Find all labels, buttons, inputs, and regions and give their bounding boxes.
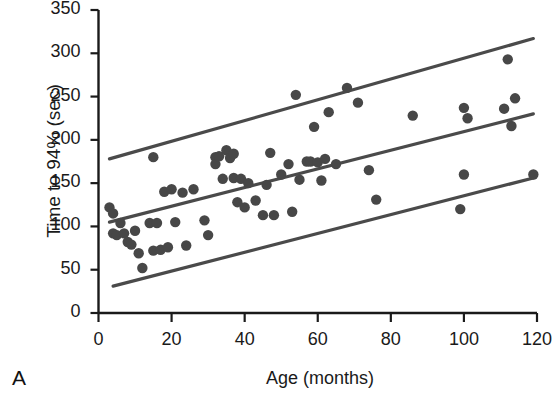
data-point — [503, 54, 513, 64]
data-point — [126, 239, 136, 249]
data-point — [499, 103, 509, 113]
data-point — [170, 217, 180, 227]
x-axis-tick-label: 0 — [69, 329, 129, 350]
data-point — [283, 159, 293, 169]
data-point — [203, 230, 213, 240]
panel-label: A — [12, 366, 26, 390]
data-point — [133, 248, 143, 258]
data-point — [324, 107, 334, 117]
x-axis-tick-label: 20 — [142, 329, 202, 350]
data-point — [148, 152, 158, 162]
data-point — [364, 165, 374, 175]
x-axis-ticks — [99, 313, 538, 322]
data-point — [166, 184, 176, 194]
mean-regression-line — [109, 114, 533, 222]
data-point — [316, 175, 326, 185]
data-point — [130, 226, 140, 236]
data-point — [510, 93, 520, 103]
data-point — [163, 242, 173, 252]
y-axis-title: Time to 94% (sec) — [43, 11, 65, 311]
data-point — [291, 90, 301, 100]
data-point — [188, 184, 198, 194]
data-point — [199, 215, 209, 225]
upper-limit-line — [109, 39, 533, 159]
data-point — [229, 149, 239, 159]
data-point — [459, 169, 469, 179]
data-point — [462, 113, 472, 123]
data-point — [506, 121, 516, 131]
data-point — [309, 122, 319, 132]
data-point — [258, 210, 268, 220]
data-point — [108, 208, 118, 218]
data-point — [459, 103, 469, 113]
data-point — [261, 180, 271, 190]
x-axis-tick-label: 80 — [361, 329, 421, 350]
data-point — [276, 169, 286, 179]
data-point — [320, 154, 330, 164]
data-point — [115, 218, 125, 228]
x-axis-tick-label: 40 — [215, 329, 275, 350]
data-point — [287, 207, 297, 217]
x-axis-tick-label: 60 — [288, 329, 348, 350]
data-point — [265, 148, 275, 158]
data-point — [243, 178, 253, 188]
lower-limit-line — [113, 178, 533, 286]
data-point — [331, 159, 341, 169]
x-axis-tick-label: 120 — [507, 329, 554, 350]
data-point — [152, 218, 162, 228]
data-point — [181, 240, 191, 250]
data-point — [371, 194, 381, 204]
data-point — [177, 187, 187, 197]
x-axis-tick-label: 100 — [434, 329, 494, 350]
x-axis-title: Age (months) — [120, 368, 520, 389]
data-point — [239, 202, 249, 212]
data-point — [408, 110, 418, 120]
data-point — [528, 169, 538, 179]
data-point — [137, 263, 147, 273]
data-point — [455, 204, 465, 214]
scatter-plot-figure: 050100150200250300350 020406080100120 Ti… — [0, 0, 554, 403]
data-point — [342, 83, 352, 93]
data-point — [353, 97, 363, 107]
data-point — [250, 195, 260, 205]
data-points-group — [104, 54, 538, 273]
data-point — [218, 174, 228, 184]
data-point — [294, 174, 304, 184]
data-point — [269, 210, 279, 220]
